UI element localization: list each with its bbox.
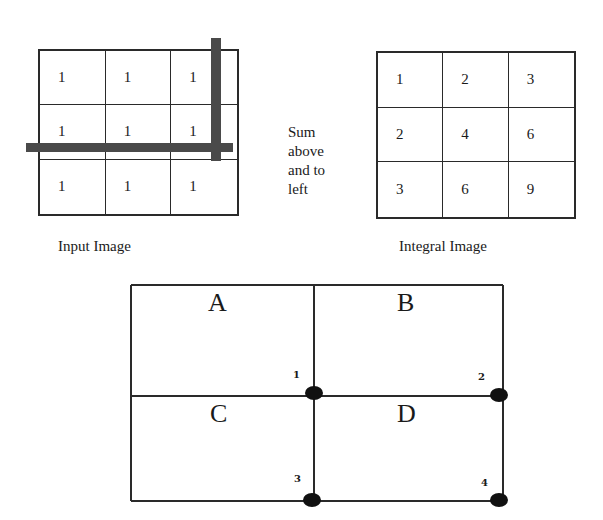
corner-dot-3: [303, 493, 321, 507]
corner-dot-4: [490, 493, 508, 507]
corner-label-3: 3: [294, 473, 301, 484]
corner-label-4: 4: [481, 477, 488, 488]
region-label-b: B: [397, 288, 414, 318]
corner-dot-1: [305, 386, 323, 400]
corner-label-1: 1: [293, 369, 300, 380]
region-label-c: C: [210, 399, 227, 429]
region-label-d: D: [397, 399, 416, 429]
region-diagram-lines: [0, 0, 603, 520]
corner-label-2: 2: [478, 371, 485, 382]
region-label-a: A: [208, 288, 227, 318]
corner-dot-2: [490, 388, 508, 402]
